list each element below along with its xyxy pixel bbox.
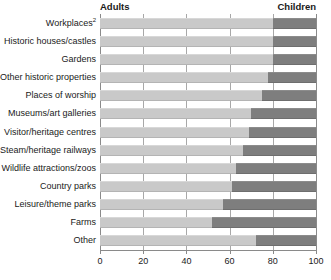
- bar-row: [100, 217, 316, 228]
- category-label: Other: [0, 235, 96, 246]
- bar-segment-adults: [100, 145, 243, 156]
- bar-row: [100, 163, 316, 174]
- bar-segment-adults: [100, 90, 262, 101]
- category-label: Other historic properties: [0, 72, 96, 83]
- bar-segment-children: [273, 54, 316, 65]
- bar-segment-children: [232, 181, 316, 192]
- bar-segment-adults: [100, 235, 256, 246]
- bar-segment-adults: [100, 72, 268, 83]
- bar-segment-children: [273, 36, 316, 47]
- x-tick-20: [143, 250, 144, 254]
- footnote-marker: 2: [93, 17, 96, 23]
- bar-segment-children: [223, 199, 316, 210]
- bar-segment-adults: [100, 54, 273, 65]
- category-axis-labels: Workplaces2Historic houses/castlesGarden…: [0, 14, 96, 250]
- legend-label-adults: Adults: [100, 0, 130, 13]
- category-label: Gardens: [0, 54, 96, 65]
- plot-area: [100, 14, 316, 250]
- bar-segment-children: [212, 217, 316, 228]
- gridline-100: [316, 14, 317, 250]
- bar-segment-adults: [100, 108, 251, 119]
- bar-segment-children: [249, 127, 316, 138]
- bar-row: [100, 54, 316, 65]
- bar-row: [100, 235, 316, 246]
- bar-segment-adults: [100, 18, 273, 29]
- x-tick-100: [316, 250, 317, 254]
- bar-segment-children: [268, 72, 316, 83]
- x-tick-80: [273, 250, 274, 254]
- bar-row: [100, 199, 316, 210]
- category-label: Workplaces2: [0, 18, 96, 29]
- bar-row: [100, 90, 316, 101]
- category-label: Farms: [0, 217, 96, 228]
- bar-segment-children: [236, 163, 316, 174]
- bar-segment-children: [273, 18, 316, 29]
- x-tick-40: [186, 250, 187, 254]
- legend-label-children: Children: [277, 0, 316, 13]
- bar-segment-children: [262, 90, 316, 101]
- category-label: Places of worship: [0, 90, 96, 101]
- bar-segment-adults: [100, 217, 212, 228]
- bar-segment-adults: [100, 36, 273, 47]
- x-tick-label-40: 40: [181, 256, 191, 267]
- bar-row: [100, 127, 316, 138]
- bar-segment-adults: [100, 199, 223, 210]
- x-tick-60: [230, 250, 231, 254]
- category-label: Historic houses/castles: [0, 36, 96, 47]
- bar-row: [100, 18, 316, 29]
- x-tick-0: [100, 250, 101, 254]
- x-tick-label-100: 100: [308, 256, 323, 267]
- x-tick-label-0: 0: [97, 256, 102, 267]
- bar-row: [100, 108, 316, 119]
- bar-segment-children: [256, 235, 316, 246]
- bar-segment-adults: [100, 181, 232, 192]
- bar-segment-children: [243, 145, 316, 156]
- category-label: Wildlife attractions/zoos: [0, 163, 96, 174]
- bar-row: [100, 36, 316, 47]
- category-label: Country parks: [0, 181, 96, 192]
- x-tick-label-60: 60: [225, 256, 235, 267]
- category-label: Leisure/theme parks: [0, 199, 96, 210]
- bar-row: [100, 181, 316, 192]
- x-axis-line: [100, 250, 317, 251]
- stacked-bar-chart: Adults Children Workplaces2Historic hous…: [0, 0, 331, 280]
- x-tick-label-20: 20: [138, 256, 148, 267]
- bar-segment-adults: [100, 127, 249, 138]
- chart-legend: Adults Children: [100, 0, 316, 14]
- category-label: Steam/heritage railways: [0, 145, 96, 156]
- x-tick-label-80: 80: [268, 256, 278, 267]
- category-label: Visitor/heritage centres: [0, 127, 96, 138]
- bar-row: [100, 72, 316, 83]
- bar-segment-children: [251, 108, 316, 119]
- bar-segment-adults: [100, 163, 236, 174]
- bar-row: [100, 145, 316, 156]
- category-label: Museums/art galleries: [0, 108, 96, 119]
